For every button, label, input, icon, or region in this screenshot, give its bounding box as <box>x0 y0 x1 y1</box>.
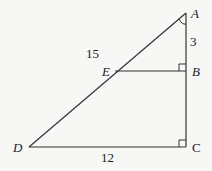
right-angle-mark-C <box>179 140 186 147</box>
diagram-svg: A B C D E 3 15 12 <box>0 0 212 171</box>
angle-mark-A <box>179 19 186 24</box>
point-label-B: B <box>192 64 200 79</box>
point-label-A: A <box>190 6 199 21</box>
point-label-D: D <box>12 140 23 155</box>
measurement-AB: 3 <box>190 34 197 49</box>
measurement-AE: 15 <box>86 46 99 61</box>
segment-AD <box>29 13 186 147</box>
measurement-DC: 12 <box>101 150 114 165</box>
point-label-C: C <box>192 140 201 155</box>
right-angle-mark-B <box>179 64 186 71</box>
geometry-diagram: A B C D E 3 15 12 <box>0 0 212 171</box>
point-label-E: E <box>101 64 110 79</box>
